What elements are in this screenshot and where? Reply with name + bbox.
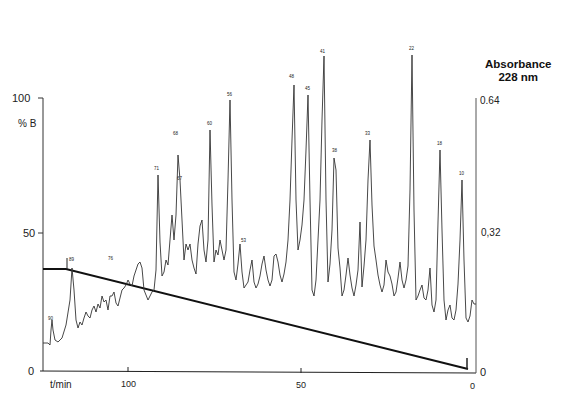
absorbance-trace	[43, 55, 476, 345]
y-right-tick-064: 0.64	[480, 95, 499, 106]
svg-text:41: 41	[320, 49, 326, 54]
svg-text:67: 67	[177, 176, 183, 181]
svg-text:53: 53	[241, 238, 247, 243]
x-axis-title: t/min	[50, 379, 72, 390]
svg-text:60: 60	[207, 121, 213, 126]
x-tick-50: 50	[296, 380, 306, 390]
y-left-title: % B	[18, 118, 36, 129]
svg-text:89: 89	[69, 257, 75, 262]
y-left-tick-100: 100	[12, 92, 30, 104]
svg-text:22: 22	[409, 46, 415, 51]
svg-text:10: 10	[459, 171, 465, 176]
svg-text:33: 33	[365, 131, 371, 136]
y-right-title-line1: Absorbance	[485, 58, 551, 71]
x-axis	[40, 371, 476, 373]
svg-text:56: 56	[227, 92, 233, 97]
y-right-tick-032: 0,32	[481, 227, 500, 238]
svg-text:71: 71	[154, 166, 160, 171]
svg-text:90: 90	[48, 316, 54, 321]
svg-text:18: 18	[437, 141, 443, 146]
x-tick-0: 0	[470, 381, 475, 391]
y-left-tick-0: 0	[28, 365, 34, 377]
svg-text:45: 45	[305, 86, 311, 91]
svg-text:76: 76	[108, 256, 114, 261]
y-left-tick-50: 50	[23, 227, 35, 239]
svg-text:48: 48	[289, 74, 295, 79]
y-right-title-line2: 228 nm	[485, 71, 551, 84]
chromatogram-plot: 90 89 76 71 68 67 60 56 53 48 45 41 38 3…	[0, 0, 569, 399]
y-right-title: Absorbance 228 nm	[485, 58, 551, 84]
svg-text:68: 68	[173, 131, 179, 136]
x-tick-100: 100	[121, 379, 136, 389]
y-right-tick-0: 0	[480, 366, 486, 378]
svg-text:38: 38	[332, 148, 338, 153]
gradient-line	[43, 269, 468, 369]
